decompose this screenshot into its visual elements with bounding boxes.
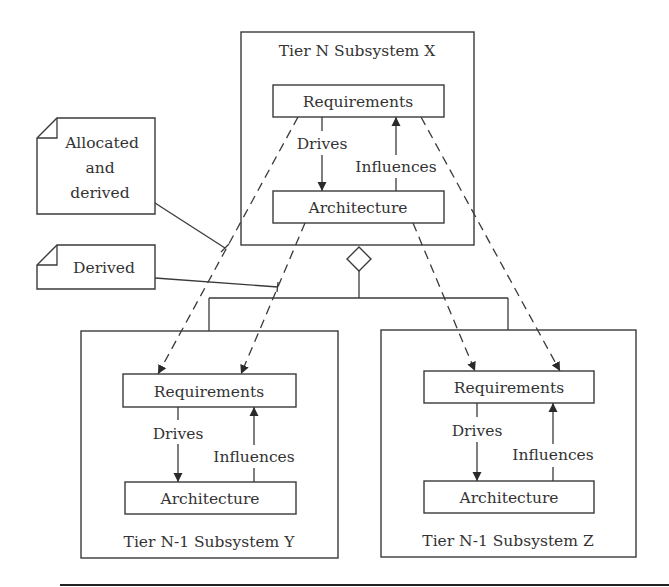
left-requirements-label: Requirements [154,383,264,401]
right-drives-label: Drives [452,422,503,440]
aggregation-connector [209,247,508,331]
right-subsystem: Requirements Architecture Drives Influen… [381,330,636,557]
right-subsystem-frame [381,330,636,557]
left-subsystem-title: Tier N-1 Subsystem Y [124,533,296,551]
note-allocated-line1: Allocated [64,134,139,152]
top-subsystem: Tier N Subsystem X Requirements Architec… [241,32,474,245]
note-derived-connector [155,278,278,287]
top-drives-label: Drives [297,135,348,153]
note-derived: Derived [37,245,278,292]
note-derived-connector-tick [277,282,278,292]
left-architecture-label: Architecture [159,490,259,508]
note-allocated-connector [155,203,225,248]
top-subsystem-title: Tier N Subsystem X [279,42,436,60]
note-allocated-and-derived: Allocated and derived [37,118,229,252]
note-derived-label: Derived [73,259,135,277]
top-influences-label: Influences [355,158,436,176]
left-influences-label: Influences [213,448,294,466]
top-architecture-label: Architecture [307,199,407,217]
left-subsystem: Requirements Architecture Drives Influen… [81,331,338,558]
left-drives-label: Drives [153,425,204,443]
note-allocated-line2: and [85,159,114,177]
aggregation-diamond-icon [347,247,371,271]
top-requirements-label: Requirements [303,93,413,111]
subsystem-hierarchy-diagram: Tier N Subsystem X Requirements Architec… [0,0,669,587]
right-influences-label: Influences [512,446,593,464]
right-subsystem-title: Tier N-1 Subsystem Z [422,532,594,550]
right-architecture-label: Architecture [458,489,558,507]
note-allocated-line3: derived [70,184,129,202]
right-requirements-label: Requirements [454,379,564,397]
left-subsystem-frame [81,331,338,558]
